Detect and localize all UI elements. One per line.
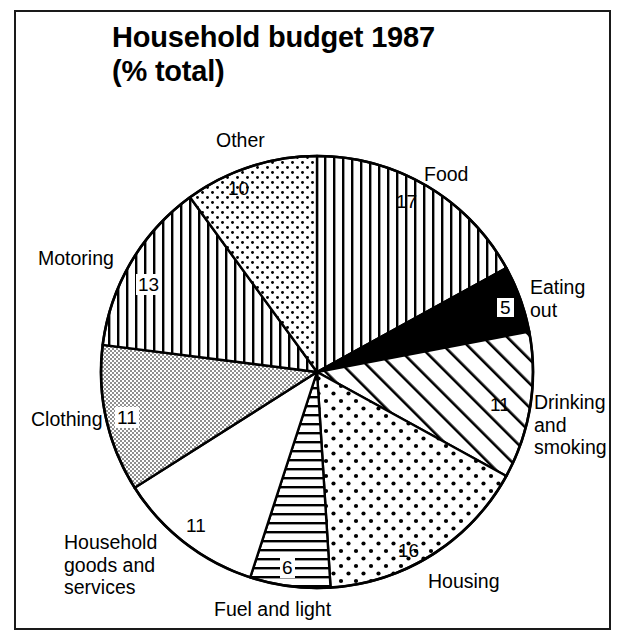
slice-label-clothing: Clothing xyxy=(31,408,103,431)
slice-label-motoring: Motoring xyxy=(38,247,114,270)
slice-label-other: Other xyxy=(216,129,265,152)
slice-value-household-goods-and-services: 11 xyxy=(186,516,206,535)
slice-value-clothing: 11 xyxy=(115,407,139,428)
slice-value-drinking-and-smoking: 11 xyxy=(490,395,510,414)
slice-label-housing: Housing xyxy=(428,570,500,593)
slice-value-eating-out: 5 xyxy=(496,297,515,318)
slice-label-household-goods-and-services: Household goods and services xyxy=(64,531,157,599)
slice-label-eating-out: Eating out xyxy=(530,276,585,321)
slice-label-drinking-and-smoking: Drinking and smoking xyxy=(534,391,607,459)
slice-label-fuel-and-light: Fuel and light xyxy=(214,598,331,621)
slice-value-housing: 16 xyxy=(398,541,419,560)
slice-value-other: 10 xyxy=(228,179,249,198)
pie-chart: Other Food Eating out Drinking and smoki… xyxy=(0,0,624,643)
slice-value-fuel-and-light: 6 xyxy=(280,557,295,578)
pie-slice-group xyxy=(101,156,533,588)
slice-label-food: Food xyxy=(424,163,468,186)
chart-page: Household budget 1987 (% total) xyxy=(0,0,624,643)
slice-value-motoring: 13 xyxy=(136,274,161,295)
slice-value-food: 17 xyxy=(396,192,417,211)
